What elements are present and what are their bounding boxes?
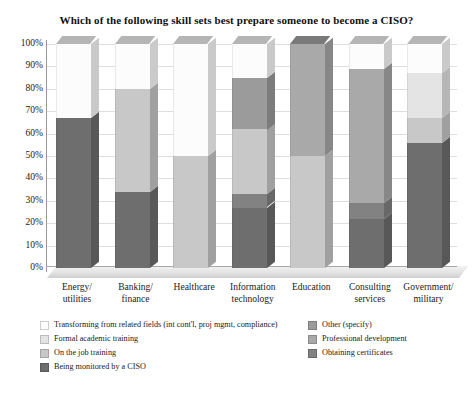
segment-0[interactable] [115,192,150,268]
segment-0[interactable] [232,208,267,268]
segment-side-face [267,201,275,268]
segment-side-face [267,123,275,194]
segment-6[interactable] [407,44,442,73]
y-axis-tick-60: 60% [3,128,43,138]
segment-side-face [150,186,158,268]
legend-label: Other (specify) [322,320,372,330]
segment-1[interactable] [232,194,267,207]
segment-6[interactable] [232,44,267,78]
segment-2[interactable] [232,129,267,194]
x-axis-category-labels: Energy/utilitiesBanking/financeHealthcar… [47,281,461,313]
legend-swatch-icon [40,349,49,358]
segment-side-face [267,71,275,129]
chart-title: Which of the following skill sets best p… [0,14,473,26]
segment-side-face [208,38,216,156]
legend-item[interactable]: Obtaining certificates [308,348,393,358]
legend-swatch-icon [308,349,317,358]
legend-label: Obtaining certificates [322,348,393,358]
x-label-4: Education [280,281,342,293]
y-axis-tick-10: 10% [3,240,43,250]
y-axis-tick-30: 30% [3,195,43,205]
y-axis-tick-20: 20% [3,217,43,227]
y-axis-tick-50: 50% [3,150,43,160]
legend-label: Being monitored by a CISO [54,362,146,372]
x-label-6: Government/military [397,281,459,305]
x-label-5: Consultingservices [339,281,401,305]
segment-side-face [442,136,450,268]
column-top-cap [349,36,389,44]
x-label-0: Energy/utilities [46,281,108,305]
y-axis-tick-0: 0% [3,262,43,272]
x-label-2: Healthcare [163,281,225,293]
segment-1[interactable] [349,203,384,219]
segment-side-face [150,38,158,89]
segment-side-face [208,150,216,268]
y-axis-tick-100: 100% [3,38,43,48]
chart-container: Which of the following skill sets best p… [0,0,473,397]
segment-3[interactable] [290,44,325,156]
column-top-cap [407,36,447,44]
x-label-1: Banking/finance [105,281,167,305]
segment-2[interactable] [173,156,208,268]
segment-2[interactable] [115,89,150,192]
legend-item[interactable]: Professional development [308,334,407,344]
segment-side-face [442,67,450,118]
segment-3[interactable] [349,69,384,203]
legend-swatch-icon [308,321,317,330]
segment-6[interactable] [115,44,150,89]
chart-legend: Transforming from related fields (int co… [40,320,460,382]
y-axis-tick-70: 70% [3,105,43,115]
segment-0[interactable] [56,118,91,268]
legend-item[interactable]: Being monitored by a CISO [40,362,146,372]
column-top-cap [232,36,272,44]
y-axis-tick-40: 40% [3,172,43,182]
column-top-cap [290,36,330,44]
legend-swatch-icon [40,335,49,344]
segment-side-face [267,38,275,78]
legend-swatch-icon [308,335,317,344]
segment-6[interactable] [56,44,91,118]
segment-5[interactable] [407,73,442,118]
segment-side-face [325,38,333,156]
column-top-cap [56,36,96,44]
legend-item[interactable]: On the job training [40,348,116,358]
legend-label: Formal academic training [54,334,138,344]
segment-2[interactable] [290,156,325,268]
legend-swatch-icon [40,321,49,330]
y-axis-tick-labels: 100%90%80%70%60%50%40%30%20%10%0% [0,44,43,268]
segment-side-face [384,212,392,268]
column-top-cap [115,36,155,44]
segment-6[interactable] [173,44,208,156]
legend-label: Transforming from related fields (int co… [54,320,278,330]
legend-label: On the job training [54,348,116,358]
segment-2[interactable] [407,118,442,143]
y-axis-tick-90: 90% [3,60,43,70]
segment-side-face [91,38,99,118]
segment-side-face [325,150,333,268]
column-top-cap [173,36,213,44]
legend-item[interactable]: Other (specify) [308,320,372,330]
legend-item[interactable]: Transforming from related fields (int co… [40,320,278,330]
segment-side-face [150,83,158,192]
legend-swatch-icon [40,363,49,372]
legend-item[interactable]: Formal academic training [40,334,138,344]
segment-6[interactable] [349,44,384,69]
y-axis-tick-80: 80% [3,83,43,93]
segment-0[interactable] [349,219,384,268]
segment-side-face [91,112,99,268]
column-series-area [47,44,457,268]
segment-4[interactable] [232,78,267,130]
legend-label: Professional development [322,334,407,344]
segment-side-face [384,62,392,203]
x-label-3: Informationtechnology [222,281,284,305]
segment-0[interactable] [407,143,442,268]
